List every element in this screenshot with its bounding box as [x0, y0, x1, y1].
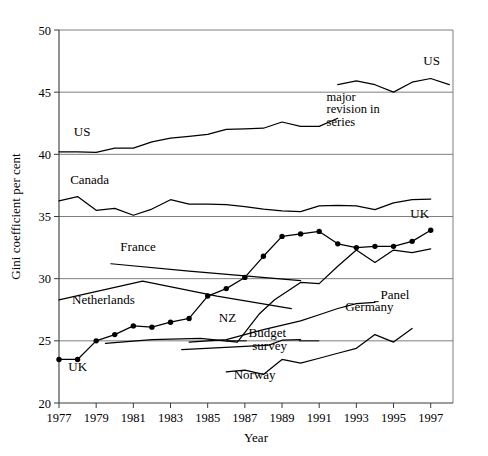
y-tick-label-20: 20: [39, 397, 52, 411]
y-tick-label-35: 35: [39, 210, 52, 224]
series-marker-uk: [131, 323, 136, 328]
x-tick-label-1979: 1979: [84, 411, 109, 425]
x-tick-label-1981: 1981: [121, 411, 146, 425]
series-label-norway: Norway: [234, 367, 276, 382]
series-label-canada: Canada: [70, 172, 109, 187]
series-marker-uk: [428, 227, 433, 232]
x-axis-title: Year: [244, 430, 269, 445]
x-tick-label-1995: 1995: [381, 411, 406, 425]
series-label-us-revised: US: [423, 53, 440, 68]
series-marker-uk: [372, 244, 377, 249]
x-tick-label-1997: 1997: [418, 411, 443, 425]
series-marker-uk: [261, 254, 266, 259]
series-label-netherlands: Netherlands: [72, 292, 135, 307]
y-tick-label-30: 30: [39, 272, 52, 286]
x-tick-label-1985: 1985: [195, 411, 220, 425]
series-label-us: US: [74, 124, 91, 139]
y-tick-label-40: 40: [39, 148, 52, 162]
series-label-uk: UK: [68, 359, 87, 374]
chart-canvas: 2025303540455019771979198119831985198719…: [0, 0, 488, 456]
x-tick-label-1991: 1991: [307, 411, 332, 425]
series-line-canada: [59, 197, 431, 216]
x-tick-label-1989: 1989: [270, 411, 295, 425]
annotation-major-revision-line-3: series: [327, 115, 356, 129]
series-label-germany-budget-survey-3: survey: [252, 338, 287, 353]
gini-coefficient-line-chart: 2025303540455019771979198119831985198719…: [0, 0, 488, 456]
series-marker-uk: [298, 231, 303, 236]
series-marker-uk: [56, 357, 61, 362]
series-marker-uk: [186, 316, 191, 321]
series-marker-uk: [149, 324, 154, 329]
series-marker-uk: [112, 332, 117, 337]
series-marker-uk: [391, 244, 396, 249]
series-marker-uk: [335, 241, 340, 246]
series-marker-uk: [168, 319, 173, 324]
series-line-france: [111, 264, 301, 281]
y-tick-label-45: 45: [39, 86, 52, 100]
series-marker-uk: [409, 239, 414, 244]
x-tick-label-1983: 1983: [158, 411, 183, 425]
series-marker-uk: [224, 286, 229, 291]
x-tick-label-1987: 1987: [232, 411, 257, 425]
y-tick-label-50: 50: [39, 24, 52, 38]
x-tick-label-1977: 1977: [47, 411, 72, 425]
series-label-uk-2: UK: [410, 206, 429, 221]
series-marker-uk: [93, 338, 98, 343]
series-marker-uk: [279, 234, 284, 239]
series-label-france: France: [120, 239, 156, 254]
series-label-nz: NZ: [219, 310, 236, 325]
series-marker-uk: [316, 229, 321, 234]
x-tick-label-1993: 1993: [344, 411, 369, 425]
series-line-us: [59, 118, 338, 152]
series-label-germany-budget-survey: Germany: [345, 299, 394, 314]
y-tick-label-25: 25: [39, 334, 52, 348]
y-axis-title: Gini coefficient per cent: [8, 153, 23, 280]
